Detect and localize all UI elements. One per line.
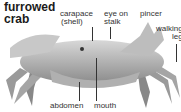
label-walking-leg: walking leg [156,25,181,41]
carapace-leader-line [92,27,93,41]
label-carapace: carapace (shell) [60,10,93,26]
label-leg-text: leg [156,33,181,41]
title-line-2: crab [4,13,55,25]
label-pincer: pincer [140,10,162,18]
diagram-title: furrowed crab [4,1,55,25]
label-stalk-text: stalk [104,18,128,26]
label-mouth: mouth [94,102,116,110]
eye-leader-line [110,27,111,39]
label-abdomen: abdomen [50,102,83,110]
abdomen-leader-line [79,82,80,101]
label-shell-text: (shell) [60,18,93,26]
leg-leader-line [176,44,177,62]
mouth-leader-line [96,58,97,101]
label-eye-on-stalk: eye on stalk [104,10,128,26]
